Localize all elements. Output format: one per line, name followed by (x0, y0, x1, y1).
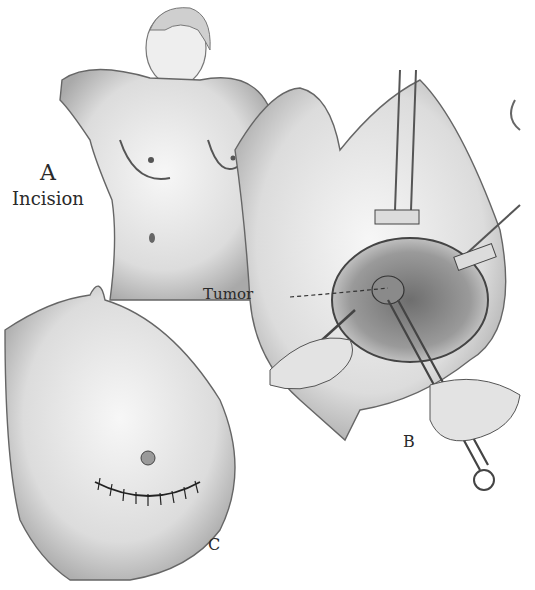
tumor-callout: Tumor (203, 285, 253, 303)
panel-b-letter: B (403, 432, 415, 451)
panel-c-letter: C (208, 535, 220, 554)
panel-a-letter: A (40, 160, 56, 185)
panel-a-caption: Incision (12, 188, 84, 209)
panel-b-figure (235, 70, 520, 490)
illustration-canvas (0, 0, 535, 590)
panel-c-figure (5, 286, 235, 580)
